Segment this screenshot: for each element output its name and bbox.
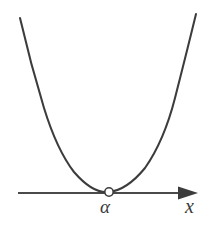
root-point-marker [105, 188, 113, 196]
x-axis-label: x [185, 196, 194, 216]
figure-canvas: α x [0, 0, 214, 232]
root-label-alpha: α [100, 197, 110, 216]
